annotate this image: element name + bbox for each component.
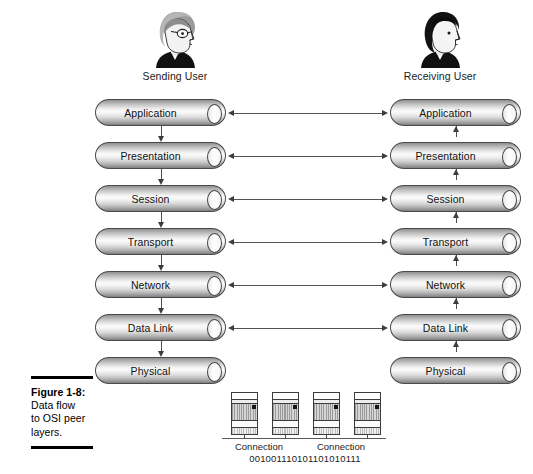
layer-label: Network <box>95 271 206 298</box>
sending-user-label: Sending User <box>115 70 235 82</box>
bitstream-label: 001001110101101010111 <box>205 453 405 464</box>
layer-session-left: Session <box>95 185 226 212</box>
peer-link-network-head-right <box>382 282 388 288</box>
device-indicator-icon <box>252 405 256 409</box>
left-flow-1-head <box>158 179 164 185</box>
layer-label: Transport <box>95 228 206 255</box>
right-flow-5-head <box>453 341 459 347</box>
layer-application-left: Application <box>95 99 226 126</box>
layer-label: Data Link <box>95 314 206 341</box>
left-flow-4-head <box>158 308 164 314</box>
peer-link-session-head-right <box>382 196 388 202</box>
caption-rule-bottom <box>31 446 93 449</box>
peer-link-network-line <box>233 285 383 286</box>
cylinder-end-cap <box>502 319 517 339</box>
cylinder-end-cap <box>207 276 222 296</box>
layer-label: Data Link <box>390 314 501 341</box>
layer-label: Session <box>390 185 501 212</box>
cylinder-end-cap <box>207 319 222 339</box>
peer-link-session-line <box>233 199 383 200</box>
person-head-gray-hair-glasses-icon <box>144 8 206 68</box>
peer-link-transport-head-left <box>228 239 234 245</box>
device-panel <box>272 427 299 435</box>
person-head-dark-hair-icon <box>409 8 471 68</box>
figure-canvas: Sending User Receiving User ApplicationP… <box>0 0 533 474</box>
layer-label: Application <box>95 99 206 126</box>
peer-link-application-head-left <box>228 110 234 116</box>
peer-link-transport-head-right <box>382 239 388 245</box>
figure-caption-line-3: layers. <box>31 426 62 438</box>
left-flow-2-head <box>158 222 164 228</box>
device-indicator-icon <box>293 405 297 409</box>
cylinder-end-cap <box>502 233 517 253</box>
cylinder-end-cap <box>207 147 222 167</box>
right-flow-0-head <box>453 126 459 132</box>
cylinder-end-cap <box>207 104 222 124</box>
cylinder-end-cap <box>207 190 222 210</box>
left-flow-5-head <box>158 351 164 357</box>
device-panel <box>313 427 340 435</box>
connection-device-1 <box>231 392 258 435</box>
peer-link-network-head-left <box>228 282 234 288</box>
peer-link-presentation-line <box>233 156 383 157</box>
cylinder-end-cap <box>207 362 222 382</box>
cylinder-end-cap <box>502 147 517 167</box>
connection-device-2 <box>272 392 299 435</box>
cylinder-end-cap <box>502 276 517 296</box>
receiving-user-label: Receiving User <box>380 70 500 82</box>
right-flow-1-head <box>453 169 459 175</box>
layer-network-left: Network <box>95 271 226 298</box>
peer-link-application-line <box>233 113 383 114</box>
right-flow-3-head <box>453 255 459 261</box>
layer-application-right: Application <box>390 99 521 126</box>
connection-label-2: Connection <box>306 441 376 452</box>
layer-transport-right: Transport <box>390 228 521 255</box>
layer-label: Application <box>390 99 501 126</box>
connection-device-3 <box>313 392 340 435</box>
layer-label: Transport <box>390 228 501 255</box>
layer-label: Physical <box>390 357 501 384</box>
layer-physical-right: Physical <box>390 357 521 384</box>
layer-label: Session <box>95 185 206 212</box>
layer-data-link-left: Data Link <box>95 314 226 341</box>
layer-data-link-right: Data Link <box>390 314 521 341</box>
peer-link-data-link-head-right <box>382 325 388 331</box>
receiving-user-figure: Receiving User <box>380 8 500 82</box>
layer-physical-left: Physical <box>95 357 226 384</box>
layer-label: Network <box>390 271 501 298</box>
caption-rule-top <box>31 376 93 379</box>
sending-user-figure: Sending User <box>115 8 235 82</box>
layer-presentation-right: Presentation <box>390 142 521 169</box>
layer-label: Presentation <box>95 142 206 169</box>
device-panel <box>354 427 381 435</box>
figure-caption-line-1: Data flow <box>31 399 75 411</box>
device-indicator-icon <box>375 405 379 409</box>
device-panel <box>231 427 258 435</box>
layer-label: Physical <box>95 357 206 384</box>
cylinder-end-cap <box>207 233 222 253</box>
figure-number: Figure 1-8: <box>31 386 93 399</box>
cylinder-end-cap <box>502 104 517 124</box>
peer-link-data-link-head-left <box>228 325 234 331</box>
physical-bus-line <box>222 438 386 439</box>
layer-transport-left: Transport <box>95 228 226 255</box>
peer-link-presentation-head-left <box>228 153 234 159</box>
cylinder-end-cap <box>502 362 517 382</box>
layer-presentation-left: Presentation <box>95 142 226 169</box>
peer-link-application-head-right <box>382 110 388 116</box>
peer-link-data-link-line <box>233 328 383 329</box>
peer-link-transport-line <box>233 242 383 243</box>
connection-device-4 <box>354 392 381 435</box>
peer-link-session-head-left <box>228 196 234 202</box>
left-flow-3-head <box>158 265 164 271</box>
layer-network-right: Network <box>390 271 521 298</box>
left-flow-0-head <box>158 136 164 142</box>
figure-caption-block: Figure 1-8: Data flow to OSI peer layers… <box>31 376 93 449</box>
device-indicator-icon <box>334 405 338 409</box>
figure-caption-text: Figure 1-8: Data flow to OSI peer layers… <box>31 386 93 439</box>
right-flow-2-head <box>453 212 459 218</box>
connection-label-1: Connection <box>224 441 294 452</box>
cylinder-end-cap <box>502 190 517 210</box>
layer-label: Presentation <box>390 142 501 169</box>
figure-caption-line-2: to OSI peer <box>31 412 85 424</box>
